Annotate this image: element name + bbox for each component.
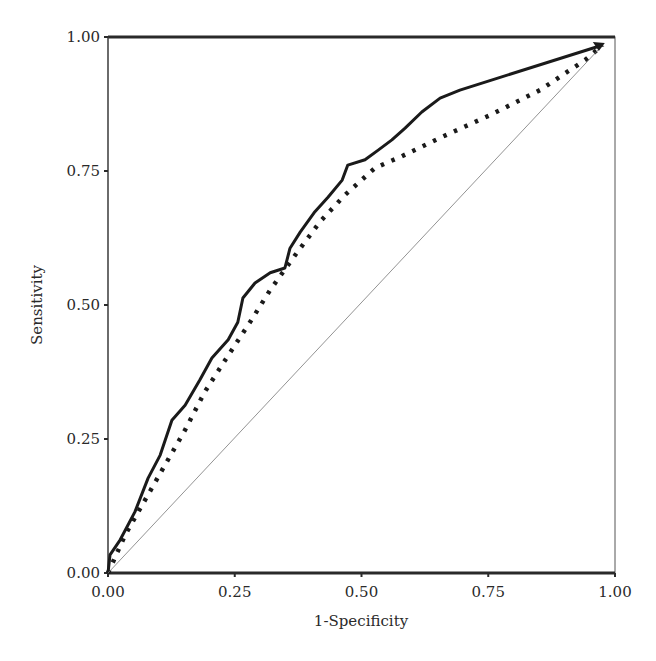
series-layer (108, 42, 605, 573)
x-tick-label: 1.00 (598, 583, 631, 601)
x-tick-label: 0.25 (218, 583, 251, 601)
y-tick-label: 0.00 (67, 564, 100, 582)
x-tick-label: 0.00 (91, 583, 124, 601)
y-tick-label: 0.50 (67, 296, 100, 314)
x-axis-ticks: 0.000.250.500.751.00 (91, 573, 631, 601)
x-tick-label: 0.75 (472, 583, 505, 601)
x-tick-label: 0.50 (345, 583, 378, 601)
reference-diagonal-line (108, 45, 603, 573)
y-axis-ticks: 0.000.250.500.751.00 (67, 28, 108, 582)
roc-chart: 0.000.250.500.751.00 0.000.250.500.751.0… (0, 0, 656, 661)
y-tick-label: 1.00 (67, 28, 100, 46)
y-tick-label: 0.75 (67, 162, 100, 180)
plot-frame (108, 37, 615, 573)
x-axis-label: 1-Specificity (314, 612, 409, 630)
plot-border (108, 37, 615, 573)
y-axis-label: Sensitivity (28, 265, 46, 345)
y-tick-label: 0.25 (67, 430, 100, 448)
